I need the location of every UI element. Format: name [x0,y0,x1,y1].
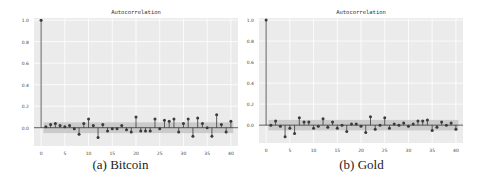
stem-marker [383,116,386,119]
stem-marker [274,119,277,122]
stem-marker [369,115,372,118]
stem-marker [450,122,453,125]
stem-marker [355,123,358,126]
stem-marker [73,127,76,130]
x-tick-label: 0 [40,151,43,156]
stem-marker [412,123,415,126]
y-tick-label: 0.8 [247,39,254,44]
x-tick-label: 25 [382,148,388,153]
stem-marker [158,127,161,130]
stem-marker [191,135,194,138]
x-tick-label: 35 [429,148,435,153]
y-tick-label: 0.8 [22,40,29,45]
stem-marker [215,113,218,116]
stem-marker [49,123,52,126]
x-tick-label: 35 [204,151,210,156]
stem-marker [279,125,282,128]
stem-marker [177,131,180,134]
y-tick-label: 0.4 [22,83,29,88]
stem-marker [307,120,310,123]
stem-marker [135,115,138,118]
stem-marker [210,135,213,138]
stem-marker [312,127,315,130]
x-tick-label: 0 [265,148,268,153]
x-tick-label: 10 [86,151,92,156]
x-tick-label: 30 [181,151,187,156]
y-tick-label: 0.2 [247,102,254,107]
stem-marker [68,124,71,127]
stem-marker [220,123,223,126]
x-tick-label: 25 [157,151,163,156]
y-tick-label: 0.0 [247,123,254,128]
stem-marker [431,129,434,132]
y-tick-label: 0.6 [22,61,29,66]
caption-bitcoin: (a) Bitcoin [0,157,241,173]
stem-marker [40,19,43,22]
stem-marker [111,127,114,130]
y-tick-label: 0.0 [22,126,29,131]
stem-marker [284,135,287,138]
stem-marker [341,124,344,127]
y-tick-label: 1.0 [22,18,29,23]
stem-marker [421,119,424,122]
x-tick-label: 15 [334,148,340,153]
stem-marker [454,128,457,131]
stem-marker [149,129,152,132]
stem-marker [445,124,448,127]
stem-marker [59,124,62,127]
stem-marker [374,128,377,131]
caption-gold: (b) Gold [241,157,482,173]
stem-marker [78,133,81,136]
x-tick-label: 40 [228,151,234,156]
stem-marker [54,122,57,125]
stem-marker [182,122,185,125]
y-tick-label: 1.0 [247,18,254,23]
stem-marker [317,125,320,128]
stem-marker [360,125,363,128]
stem-marker [378,124,381,127]
stem-marker [303,120,306,123]
stem-marker [331,120,334,123]
acf-panel-bitcoin: Autocorrelation0.00.20.40.60.81.00510152… [0,0,241,184]
stem-marker [440,120,443,123]
stem-marker [388,127,391,130]
x-tick-label: 40 [453,148,459,153]
stem-marker [139,129,142,132]
stem-marker [407,125,410,128]
stem-marker [288,127,291,130]
stem-marker [63,125,66,128]
stem-marker [269,124,272,127]
stem-marker [265,19,268,22]
stem-marker [97,136,100,139]
stem-marker [125,128,128,131]
stem-marker [293,132,296,135]
stem-marker [298,116,301,119]
y-tick-label: 0.2 [22,104,29,109]
stem-marker [416,119,419,122]
stem-marker [44,125,47,128]
y-tick-label: 0.4 [247,81,254,86]
stem-marker [435,126,438,129]
stem-marker [426,118,429,121]
stem-marker [168,120,171,123]
stem-marker [153,118,156,121]
stem-marker [144,129,147,132]
stem-marker [364,131,367,134]
x-tick-label: 5 [288,148,291,153]
x-tick-label: 20 [133,151,139,156]
stem-marker [326,126,329,129]
stem-marker [393,123,396,126]
x-tick-label: 30 [406,148,412,153]
stem-marker [206,126,209,129]
stem-marker [130,131,133,134]
stem-marker [82,122,85,125]
stem-marker [397,124,400,127]
acf-panel-gold: Autocorrelation0.00.20.40.60.81.00510152… [241,0,482,184]
stem-marker [101,123,104,126]
y-tick-label: 0.6 [247,60,254,65]
stem-marker [402,122,405,125]
x-tick-label: 10 [311,148,317,153]
chart-title: Autocorrelation [336,9,386,15]
chart-title: Autocorrelation [111,9,161,15]
stem-marker [172,118,175,121]
